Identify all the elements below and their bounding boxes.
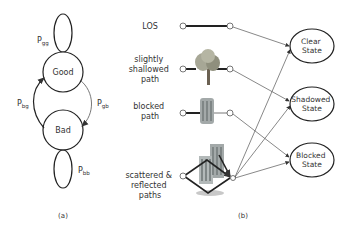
arrow-scattered-shadowed <box>235 106 290 177</box>
state-good-label: Good <box>52 68 73 77</box>
arc-bad-to-good <box>34 78 45 128</box>
panel-b: LOS slightly shallowed path blocked path… <box>125 22 334 220</box>
blocked-node-end <box>227 110 233 116</box>
arc-good-to-bad <box>80 80 92 126</box>
arrow-los-clear <box>233 27 289 46</box>
tree-node-end <box>227 66 233 72</box>
label-pgb: Pgb <box>97 99 109 110</box>
arrow-scattered-blocked <box>235 162 289 178</box>
label-pbb: Pbb <box>78 166 90 176</box>
los-node-end <box>227 23 233 29</box>
arrow-scattered-clear <box>235 50 290 177</box>
loop-bb <box>54 150 72 188</box>
path-label-blocked: blocked path <box>133 102 167 121</box>
diagram: Good Bad Pgg Pbg Pgb Pbb (a) LOS slightl… <box>0 0 353 235</box>
los-node-start <box>180 23 186 29</box>
path-label-los: LOS <box>142 22 158 31</box>
label-pgg: Pgg <box>37 36 49 47</box>
building-icon <box>200 98 214 124</box>
loop-gg <box>54 14 72 52</box>
state-bad-label: Bad <box>55 126 70 135</box>
state-clear-label: Clear State <box>301 37 323 55</box>
blocked-node-start <box>180 110 186 116</box>
arrow-blocked-blocked <box>233 114 289 157</box>
arrow-tree-shadowed <box>233 70 289 101</box>
tree-node-start <box>180 66 186 72</box>
path-label-scattered: scattered & reflected paths <box>125 171 174 200</box>
label-pbg: Pbg <box>17 99 29 110</box>
caption-b: (b) <box>238 212 248 220</box>
path-label-shallowed: slightly shallowed path <box>129 55 172 84</box>
scattered-node-start <box>180 173 186 179</box>
tree-icon <box>195 49 220 85</box>
caption-a: (a) <box>58 212 68 220</box>
panel-a: Good Bad Pgg Pbg Pgb Pbb (a) <box>17 14 109 220</box>
scattered-node-end <box>231 176 236 181</box>
